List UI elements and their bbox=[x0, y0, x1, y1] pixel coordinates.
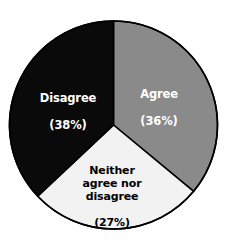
pie-chart-svg bbox=[0, 0, 227, 243]
pie-slices bbox=[10, 21, 218, 229]
pie-chart: Agree (36%) Disagree (38%) Neither agree… bbox=[0, 0, 227, 243]
